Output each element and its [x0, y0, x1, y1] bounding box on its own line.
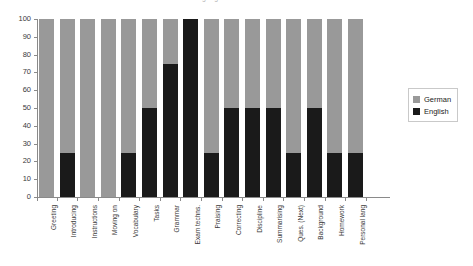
x-axis-label: Ques. (Next): [297, 205, 305, 242]
plot-area: [38, 19, 389, 197]
legend-label: English: [424, 107, 449, 116]
y-axis-tick-label: 90: [23, 32, 31, 41]
bar-vocabulary[interactable]: [121, 19, 136, 197]
bar-background[interactable]: [307, 19, 322, 197]
y-axis-tick-label: 100: [18, 14, 31, 23]
x-axis-label: Correcting: [235, 205, 243, 235]
bar-segment-german: [348, 19, 363, 153]
bar-correcting[interactable]: [224, 19, 239, 197]
y-axis-tick-label: 70: [23, 67, 31, 76]
bar-segment-german: [142, 19, 157, 108]
legend-label: German: [424, 95, 451, 104]
legend-item-german[interactable]: German: [413, 93, 451, 105]
x-axis-line: [37, 197, 390, 198]
bar-segment-german: [204, 19, 219, 153]
legend-item-english[interactable]: English: [413, 105, 451, 117]
bar-ques-next[interactable]: [286, 19, 301, 197]
x-axis-label: Vocabulary: [132, 205, 140, 237]
x-axis-tick-mark: [160, 197, 161, 201]
bar-segment-english: [121, 153, 136, 198]
x-axis-label: Praising: [214, 205, 222, 228]
x-axis-tick-mark: [345, 197, 346, 201]
bar-segment-german: [60, 19, 75, 153]
y-axis-tick-label: 40: [23, 121, 31, 130]
x-axis-tick-mark: [180, 197, 181, 201]
bar-segment-german: [224, 19, 239, 108]
bar-segment-german: [266, 19, 281, 108]
bar-introducing[interactable]: [60, 19, 75, 197]
x-axis-tick-mark: [304, 197, 305, 201]
bar-segment-english: [163, 64, 178, 198]
legend-swatch-english: [413, 108, 420, 115]
bar-segment-german: [101, 19, 116, 197]
x-axis-tick-mark: [242, 197, 243, 201]
bar-segment-english: [348, 153, 363, 198]
bar-segment-english: [224, 108, 239, 197]
x-axis-label: Exam techns.: [194, 205, 202, 244]
x-axis-label: Summarising: [276, 205, 284, 243]
bar-segment-german: [286, 19, 301, 153]
bar-segment-english: [142, 108, 157, 197]
x-axis-label: Instructions: [91, 205, 99, 238]
chart-legend: GermanEnglish: [408, 88, 458, 122]
bar-segment-english: [60, 153, 75, 198]
bar-greeting[interactable]: [39, 19, 54, 197]
x-axis-tick-mark: [77, 197, 78, 201]
x-axis-label: Tasks: [153, 205, 161, 222]
bar-tasks[interactable]: [142, 19, 157, 197]
bar-segment-german: [80, 19, 95, 197]
bar-segment-english: [245, 108, 260, 197]
x-axis-tick-mark: [98, 197, 99, 201]
x-axis-label: Introducing: [70, 205, 78, 237]
x-axis-label: Moving on: [111, 205, 119, 235]
y-axis-tick-label: 80: [23, 50, 31, 59]
bar-instructions[interactable]: [80, 19, 95, 197]
x-axis-tick-mark: [222, 197, 223, 201]
x-axis-tick-mark: [366, 197, 367, 201]
bar-grammar[interactable]: [163, 19, 178, 197]
bar-summarising[interactable]: [266, 19, 281, 197]
x-axis-label: Background: [317, 205, 325, 240]
x-axis-label: Grammar: [173, 205, 181, 232]
bar-segment-german: [121, 19, 136, 153]
y-axis-tick-label: 10: [23, 174, 31, 183]
x-axis-label: Personal lang: [359, 205, 367, 245]
bar-segment-english: [327, 153, 342, 198]
x-axis-label: Greeting: [50, 205, 58, 230]
x-axis-tick-mark: [119, 197, 120, 201]
bar-discipline[interactable]: [245, 19, 260, 197]
x-axis-tick-mark: [325, 197, 326, 201]
x-axis-label: Homework: [338, 205, 346, 236]
bar-segment-german: [245, 19, 260, 108]
x-axis-tick-mark: [263, 197, 264, 201]
x-axis-tick-mark: [201, 197, 202, 201]
chart-title: Teacher language use: [0, 0, 400, 1]
bar-segment-english: [266, 108, 281, 197]
bar-segment-german: [307, 19, 322, 108]
x-axis-tick-mark: [57, 197, 58, 201]
x-axis-tick-mark: [37, 197, 38, 201]
y-axis-tick-label: 60: [23, 85, 31, 94]
bar-segment-german: [39, 19, 54, 197]
y-axis-tick-label: 0: [27, 192, 31, 201]
bar-segment-english: [204, 153, 219, 198]
legend-swatch-german: [413, 96, 420, 103]
y-axis-tick-label: 50: [23, 103, 31, 112]
x-axis-label: Discipline: [256, 205, 264, 233]
bar-segment-english: [286, 153, 301, 198]
bar-segment-english: [183, 19, 198, 197]
x-axis-tick-mark: [139, 197, 140, 201]
x-axis-tick-mark: [283, 197, 284, 201]
y-axis-tick-label: 20: [23, 156, 31, 165]
bar-moving-on[interactable]: [101, 19, 116, 197]
bar-segment-english: [307, 108, 322, 197]
bar-personal-lang[interactable]: [348, 19, 363, 197]
y-axis-tick-label: 30: [23, 139, 31, 148]
bar-praising[interactable]: [204, 19, 219, 197]
bar-segment-german: [163, 19, 178, 64]
bar-segment-german: [327, 19, 342, 153]
bar-homework[interactable]: [327, 19, 342, 197]
bar-exam-techns[interactable]: [183, 19, 198, 197]
